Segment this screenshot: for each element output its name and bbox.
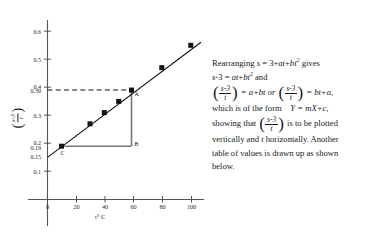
data-point [129, 88, 134, 93]
paren-close-1: ) [232, 88, 238, 99]
paren-open: ( [11, 123, 23, 128]
line6-post: horizontally. Another [264, 134, 339, 144]
ytick-label-0.39: 0.39 [8, 87, 41, 94]
xtick-label-0: 0 [38, 203, 57, 210]
paren-close-3: ) [278, 119, 284, 130]
paren-close: ) [11, 108, 23, 113]
ytick-label-0.19: 0.19 [8, 144, 41, 151]
paren-open-2: ( [278, 88, 284, 99]
figure-root: 0.6 0.5 0.4 0.39 0.3 0.2 0.19 0.15 0.1 0… [0, 0, 372, 233]
line6-pre: vertically and [212, 134, 261, 144]
text-line-3: ( s-3 t ) = a+bt or ( s-3 t ) = bt+a, [212, 85, 370, 102]
point-label-b: B [135, 141, 139, 147]
xtick-label-100: 100 [182, 203, 201, 210]
line1-post: gives [300, 58, 320, 68]
line1-bt: bt [290, 58, 297, 68]
paren-open-1: ( [213, 88, 219, 99]
y-axis-title: ( s-3 t ) [4, 98, 30, 138]
text-line-1: Rearranging s = 3+at+bt2 gives [212, 56, 370, 70]
data-point [102, 110, 107, 115]
ytick-label-0.15: 0.15 [8, 153, 41, 160]
fraction-2-numerator: s-3 [285, 85, 297, 93]
graph-panel: 0.6 0.5 0.4 0.39 0.3 0.2 0.19 0.15 0.1 0… [0, 0, 205, 233]
text-line-4: which is of the form Y = mX+c, [212, 102, 370, 115]
data-point [116, 99, 121, 104]
line5-post: is to be plotted [285, 118, 338, 128]
paren-close-2: ) [297, 88, 303, 99]
fraction-2: s-3 t [285, 85, 297, 102]
line1-mid: = 3+ [260, 58, 278, 68]
xtick-label-80: 80 [153, 203, 172, 210]
line5-pre: showing that [212, 118, 258, 128]
fraction-1-denominator: t [223, 94, 228, 102]
line1-at: at [278, 58, 285, 68]
data-point [88, 121, 93, 126]
point-label-c: C [61, 150, 65, 156]
line2-rest: -3 = [215, 72, 231, 82]
point-label-a: A [135, 91, 139, 97]
line3-eq2: = bt+a, [304, 87, 333, 97]
data-points [59, 43, 193, 149]
ytick-label-0.1: 0.1 [8, 168, 41, 175]
text-line-8: below. [212, 160, 370, 173]
line4-equation: Y = mX+c, [290, 103, 328, 113]
fraction-3: s-3 t [265, 116, 277, 133]
text-line-5: showing that ( s-3 t ) is to be plotted [212, 116, 370, 133]
data-point [159, 65, 164, 70]
fraction-3-numerator: s-3 [265, 116, 277, 124]
x-axis-title: t° C [95, 213, 105, 220]
xtick-label-60: 60 [124, 203, 143, 210]
y-axis-title-inner: ( s-3 t ) [10, 108, 24, 129]
line2-and: and [253, 72, 268, 82]
data-point [188, 43, 193, 48]
line1-pre: Rearranging [212, 58, 257, 68]
paren-open-3: ( [259, 119, 265, 130]
best-fit-line [48, 42, 202, 157]
y-axis-fraction-numerator: s-3 [10, 113, 17, 123]
y-axis-fraction: s-3 t [10, 113, 24, 123]
line3-eq1: = a+bt or [239, 87, 278, 97]
fraction-2-denominator: t [288, 94, 293, 102]
data-point [59, 144, 64, 149]
ytick-label-0.6: 0.6 [8, 28, 41, 35]
text-line-6: vertically and t horizontally. Another [212, 133, 370, 146]
fraction-1-numerator: s-3 [219, 85, 231, 93]
line2-bt: bt [243, 72, 250, 82]
fraction-group-2: ( s-3 t ) [278, 85, 303, 102]
line4-text: which is of the form [212, 103, 282, 113]
text-line-7: table of values is drawn up as shown [212, 147, 370, 160]
fraction-3-denominator: t [269, 125, 274, 133]
explanation-text: Rearranging s = 3+at+bt2 gives s-3 = at+… [212, 56, 370, 174]
fraction-1: s-3 t [219, 85, 231, 102]
fraction-group-1: ( s-3 t ) [213, 85, 238, 102]
y-axis-fraction-denominator: t [18, 116, 25, 120]
fraction-group-3: ( s-3 t ) [259, 116, 284, 133]
ytick-label-0.5: 0.5 [8, 56, 41, 63]
xtick-label-40: 40 [96, 203, 115, 210]
xtick-label-20: 20 [67, 203, 86, 210]
